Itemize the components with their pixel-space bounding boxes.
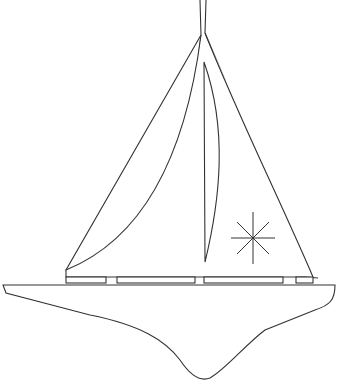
deck-plank-4 <box>296 277 313 283</box>
deck-plank-3 <box>204 277 283 283</box>
deck-plank-1 <box>66 277 106 283</box>
sailboat-drawing <box>0 0 341 388</box>
deck-plank-2 <box>117 277 195 283</box>
main-sail-outline <box>66 35 318 278</box>
hull <box>3 285 335 379</box>
